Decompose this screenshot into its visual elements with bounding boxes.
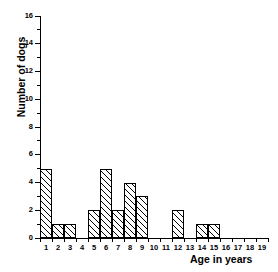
y-tick-label: 6 bbox=[19, 150, 33, 158]
y-minor-tick-mark bbox=[37, 140, 40, 141]
bar bbox=[52, 224, 64, 238]
x-tick-mark bbox=[100, 238, 101, 242]
bar bbox=[112, 210, 124, 238]
bar bbox=[136, 196, 148, 238]
x-axis-title: Age in years bbox=[190, 253, 252, 265]
y-tick-label: 8 bbox=[19, 123, 33, 131]
y-tick-mark bbox=[35, 99, 40, 100]
bar bbox=[40, 169, 52, 238]
y-minor-tick-mark bbox=[37, 113, 40, 114]
y-tick-label: 0 bbox=[19, 234, 33, 242]
x-tick-mark bbox=[184, 238, 185, 242]
y-tick-label: 12 bbox=[19, 67, 33, 75]
x-tick-mark bbox=[268, 238, 269, 242]
y-minor-tick-mark bbox=[37, 57, 40, 58]
y-tick-label: 4 bbox=[19, 178, 33, 186]
y-tick-mark bbox=[35, 127, 40, 128]
y-tick-label: 2 bbox=[19, 206, 33, 214]
bar bbox=[100, 169, 112, 238]
x-tick-mark bbox=[172, 238, 173, 242]
bar bbox=[64, 224, 76, 238]
bar bbox=[172, 210, 184, 238]
x-tick-mark bbox=[244, 238, 245, 242]
x-tick-mark bbox=[76, 238, 77, 242]
x-tick-mark bbox=[88, 238, 89, 242]
x-tick-mark bbox=[220, 238, 221, 242]
y-tick-mark bbox=[35, 71, 40, 72]
x-tick-mark bbox=[256, 238, 257, 242]
histogram-chart: Number of dogs Age in years 024681012141… bbox=[0, 0, 278, 272]
y-tick-mark bbox=[35, 43, 40, 44]
y-minor-tick-mark bbox=[37, 29, 40, 30]
x-tick-mark bbox=[112, 238, 113, 242]
y-tick-mark bbox=[35, 16, 40, 17]
bar bbox=[208, 224, 220, 238]
bar bbox=[88, 210, 100, 238]
x-tick-mark bbox=[208, 238, 209, 242]
x-tick-mark bbox=[52, 238, 53, 242]
y-tick-label: 14 bbox=[19, 39, 33, 47]
bar bbox=[196, 224, 208, 238]
bar bbox=[124, 183, 136, 239]
x-tick-mark bbox=[148, 238, 149, 242]
x-tick-mark bbox=[136, 238, 137, 242]
x-tick-mark bbox=[124, 238, 125, 242]
x-tick-label: 19 bbox=[255, 243, 269, 252]
y-tick-mark bbox=[35, 154, 40, 155]
y-minor-tick-mark bbox=[37, 85, 40, 86]
x-tick-mark bbox=[196, 238, 197, 242]
y-tick-label: 10 bbox=[19, 95, 33, 103]
x-tick-mark bbox=[232, 238, 233, 242]
x-tick-mark bbox=[40, 238, 41, 242]
x-tick-mark bbox=[64, 238, 65, 242]
y-tick-label: 16 bbox=[19, 12, 33, 20]
x-tick-mark bbox=[160, 238, 161, 242]
